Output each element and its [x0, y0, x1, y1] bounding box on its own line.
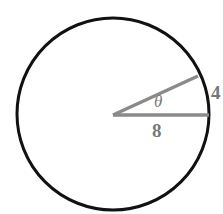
arc-length-label: 4	[211, 82, 221, 103]
circle-sector-diagram: θ 8 4	[0, 0, 223, 214]
angle-label: θ	[154, 92, 162, 111]
radius-label: 8	[152, 120, 162, 141]
